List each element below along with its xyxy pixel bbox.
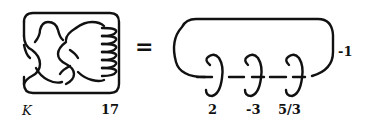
ring-2-coefficient: -3: [246, 102, 260, 117]
outer-loop-coefficient: -1: [338, 44, 352, 59]
surgery-drawing: [174, 19, 333, 96]
knot-surgery-diagram: K 17 = -1 2 -3 5/3: [0, 0, 368, 124]
knot-k-label: K: [22, 103, 32, 118]
equals-sign: =: [135, 34, 153, 59]
twist-count-label: 17: [101, 102, 119, 117]
ring-3-coefficient: 5/3: [278, 102, 301, 117]
diagram-svg: [0, 0, 368, 124]
knot-k-drawing: [24, 13, 119, 93]
ring-1-coefficient: 2: [208, 102, 217, 117]
